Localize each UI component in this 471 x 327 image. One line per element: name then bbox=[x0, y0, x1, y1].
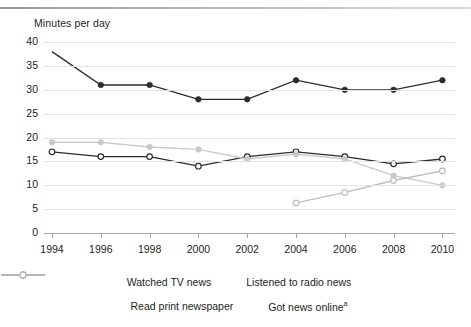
series-line-newspaper bbox=[52, 142, 442, 185]
y-tick-label-5: 5 bbox=[12, 202, 38, 214]
y-tick-label-30: 30 bbox=[12, 83, 38, 95]
x-tick-label-1996: 1996 bbox=[76, 243, 126, 255]
data-point-newspaper-1996 bbox=[98, 140, 104, 146]
data-point-radio-1994 bbox=[49, 149, 55, 155]
legend-label-tv: Watched TV news bbox=[127, 276, 212, 288]
legend-item-newspaper[interactable]: Read print newspaper bbox=[124, 300, 234, 312]
x-tick-2008 bbox=[394, 233, 395, 238]
gridline-10 bbox=[44, 185, 455, 186]
data-point-newspaper-2000 bbox=[196, 147, 202, 153]
x-tick-2000 bbox=[198, 233, 199, 238]
x-tick-label-1994: 1994 bbox=[27, 243, 77, 255]
legend-label-newspaper: Read print newspaper bbox=[131, 300, 234, 312]
x-tick-label-2004: 2004 bbox=[271, 243, 321, 255]
data-point-tv-1996 bbox=[98, 82, 104, 88]
x-tick-label-2010: 2010 bbox=[417, 243, 467, 255]
gridline-30 bbox=[44, 90, 455, 91]
data-point-online-2008 bbox=[391, 178, 397, 184]
data-point-tv-2002 bbox=[244, 97, 250, 103]
gridline-20 bbox=[44, 138, 455, 139]
y-tick-label-25: 25 bbox=[12, 107, 38, 119]
data-point-newspaper-1994 bbox=[49, 140, 55, 146]
x-tick-label-2000: 2000 bbox=[173, 243, 223, 255]
gridline-15 bbox=[44, 161, 455, 162]
gridline-40 bbox=[44, 42, 455, 43]
legend-row-1: Watched TV newsListened to radio news bbox=[0, 270, 471, 294]
gridline-35 bbox=[44, 66, 455, 67]
legend-label-radio: Listened to radio news bbox=[246, 276, 351, 288]
data-point-tv-2000 bbox=[196, 97, 202, 103]
series-line-tv bbox=[52, 52, 442, 100]
chart-legend: Watched TV newsListened to radio newsRea… bbox=[0, 270, 471, 318]
x-tick-label-2006: 2006 bbox=[320, 243, 370, 255]
legend-footnote-marker: a bbox=[344, 300, 348, 307]
data-point-tv-2004 bbox=[293, 77, 299, 83]
legend-row-2: Read print newspaperGot news onlinea bbox=[0, 294, 471, 318]
x-tick-1998 bbox=[150, 233, 151, 238]
data-point-tv-2010 bbox=[440, 77, 446, 83]
y-tick-label-40: 40 bbox=[12, 35, 38, 47]
gridline-5 bbox=[44, 209, 455, 210]
data-point-radio-2000 bbox=[196, 163, 202, 169]
data-point-newspaper-2004 bbox=[293, 151, 299, 157]
data-point-online-2006 bbox=[342, 190, 348, 196]
series-line-online bbox=[296, 171, 442, 203]
x-tick-label-1998: 1998 bbox=[125, 243, 175, 255]
x-tick-1994 bbox=[52, 233, 53, 238]
data-point-radio-1996 bbox=[98, 154, 104, 160]
x-tick-2002 bbox=[247, 233, 248, 238]
legend-swatch-online bbox=[0, 270, 46, 280]
data-point-online-2004 bbox=[293, 200, 299, 206]
x-tick-1996 bbox=[101, 233, 102, 238]
x-tick-2004 bbox=[296, 233, 297, 238]
y-tick-label-0: 0 bbox=[12, 226, 38, 238]
legend-item-online[interactable]: Got news onlinea bbox=[261, 300, 347, 313]
y-tick-label-15: 15 bbox=[12, 154, 38, 166]
x-tick-2010 bbox=[442, 233, 443, 238]
legend-item-tv[interactable]: Watched TV news bbox=[120, 276, 212, 288]
legend-label-online: Got news onlinea bbox=[268, 300, 347, 313]
data-point-newspaper-1998 bbox=[147, 144, 153, 150]
x-tick-2006 bbox=[345, 233, 346, 238]
chart-plot-area bbox=[44, 42, 455, 233]
y-tick-label-20: 20 bbox=[12, 131, 38, 143]
y-tick-label-35: 35 bbox=[12, 59, 38, 71]
legend-item-radio[interactable]: Listened to radio news bbox=[239, 276, 351, 288]
data-point-radio-1998 bbox=[147, 154, 153, 160]
data-point-tv-1998 bbox=[147, 82, 153, 88]
gridline-25 bbox=[44, 114, 455, 115]
x-tick-label-2002: 2002 bbox=[222, 243, 272, 255]
y-tick-label-10: 10 bbox=[12, 178, 38, 190]
data-point-online-2010 bbox=[440, 168, 446, 174]
x-tick-label-2008: 2008 bbox=[369, 243, 419, 255]
